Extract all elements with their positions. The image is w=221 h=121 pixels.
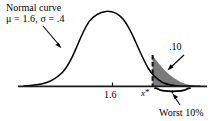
area-label-arrow — [167, 55, 184, 70]
curve-parameter-annotation: Normal curve μ = 1.6, σ = .4 — [6, 2, 65, 24]
curve-annotation-line2: μ = 1.6, σ = .4 — [6, 13, 65, 24]
tail-area-label: .10 — [169, 41, 182, 52]
worst-label-arrow — [172, 94, 180, 106]
xstar-axis-label: x* — [141, 87, 150, 98]
curve-annotation-line1: Normal curve — [6, 2, 65, 13]
shaded-tail-region — [153, 56, 197, 87]
curve-label-arrow — [43, 26, 62, 48]
normal-curve-figure: Normal curve μ = 1.6, σ = .4 .10 1.6 x* … — [0, 0, 221, 121]
mean-axis-tick-label: 1.6 — [104, 89, 117, 100]
xstar-asterisk: * — [145, 87, 150, 97]
worst-ten-percent-label: Worst 10% — [159, 107, 203, 118]
worst-ten-percent-brace — [155, 88, 190, 92]
